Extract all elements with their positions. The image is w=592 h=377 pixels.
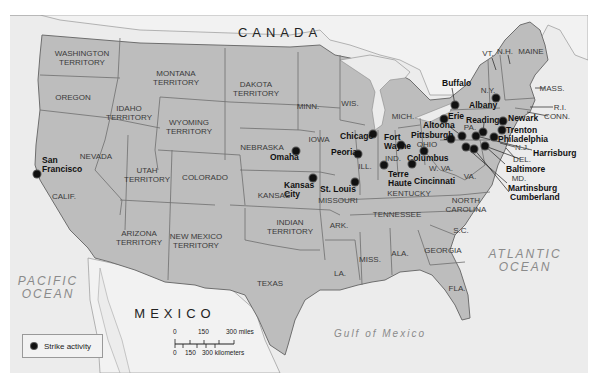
region-label: COLORADO — [182, 173, 228, 182]
strike-marker-icon — [34, 171, 41, 178]
region-label: WYOMINGTERRITORY — [166, 118, 212, 136]
region-label-line: VA. — [464, 172, 476, 181]
city-label-line: Reading — [466, 116, 500, 125]
region-label-line: N.Y. — [481, 86, 496, 95]
strike-marker-icon — [459, 133, 466, 140]
region-label-line: ALA. — [391, 249, 408, 258]
region-label-line: OHIO — [417, 140, 437, 149]
region-label: UTAHTERRITORY — [124, 166, 170, 184]
city-label: Albany — [469, 101, 497, 110]
city-label: Peoria — [331, 148, 357, 157]
region-label: VT. — [482, 49, 494, 58]
legend-label: Strike activity — [44, 342, 91, 351]
region-label-line: IND. — [385, 154, 401, 163]
ocean-line: OCEAN — [488, 261, 561, 274]
region-label: FLA. — [449, 284, 466, 293]
region-label-line: IOWA — [308, 135, 329, 144]
region-label: GEORGIA — [424, 246, 461, 255]
region-label-line: TENNESSEE — [373, 210, 421, 219]
region-label-line: TERRITORY — [116, 238, 162, 247]
region-label-line: UTAH — [124, 166, 170, 175]
city-label-line: Philadelphia — [498, 135, 548, 144]
city-label: Chicago — [340, 132, 374, 141]
region-label-line: S.C. — [453, 226, 469, 235]
city-label-line: Chicago — [340, 132, 374, 141]
ocean-label-gulf: Gulf of Mexico — [334, 327, 426, 340]
region-label: S.C. — [453, 226, 469, 235]
region-label: NEVADA — [80, 152, 112, 161]
strike-marker-icon — [471, 146, 478, 153]
region-label: IND. — [385, 154, 401, 163]
region-label: LA. — [334, 269, 346, 278]
region-label-line: TERRITORY — [233, 89, 279, 98]
region-label: NORTHCAROLINA — [446, 196, 487, 214]
region-label: MISS. — [359, 255, 381, 264]
region-label: W. VA. — [429, 164, 453, 173]
region-label: OHIO — [417, 140, 437, 149]
country-label-mexico: MEXICO — [134, 306, 215, 321]
city-label-line: Peoria — [331, 148, 357, 157]
region-label: DAKOTATERRITORY — [233, 80, 279, 98]
region-label: NEW MEXICOTERRITORY — [170, 232, 222, 250]
region-label-line: TERRITORY — [124, 175, 170, 184]
region-label: R.I. — [554, 103, 566, 112]
region-label-line: MINN. — [297, 102, 320, 111]
region-label: VA. — [464, 172, 476, 181]
strike-marker-icon — [473, 133, 480, 140]
ocean-line: OCEAN — [18, 288, 78, 301]
region-label: OREGON — [55, 93, 91, 102]
region-label: TEXAS — [257, 279, 283, 288]
city-label-line: Albany — [469, 101, 497, 110]
legend: Strike activity — [22, 334, 103, 358]
region-label-line: WASHINGTON — [55, 49, 110, 58]
city-label-line: Buffalo — [442, 79, 471, 88]
city-label: TerreHaute — [388, 170, 412, 188]
strike-marker-icon — [500, 118, 507, 125]
city-label-line: Newark — [508, 114, 538, 123]
region-label-line: ARIZONA — [116, 229, 162, 238]
country-label-canada: CANADA — [238, 25, 322, 40]
region-label: N.Y. — [481, 86, 496, 95]
region-label-line: MISSOURI — [318, 196, 358, 205]
region-label-line: MONTANA — [153, 69, 199, 78]
region-label-line: MAINE — [518, 47, 543, 56]
region-label-line: TERRITORY — [106, 113, 152, 122]
region-label-line: TERRITORY — [267, 227, 313, 236]
region-label: WIS. — [341, 99, 358, 108]
region-label: MONTANATERRITORY — [153, 69, 199, 87]
region-label-line: FLA. — [449, 284, 466, 293]
region-label-line: ILL. — [358, 162, 371, 171]
region-label: DEL. — [513, 155, 531, 164]
region-label: MINN. — [297, 102, 320, 111]
region-label-line: TERRITORY — [55, 58, 110, 67]
city-label-line: Harrisburg — [533, 149, 576, 158]
city-label: Newark — [508, 114, 538, 123]
region-label: MICH. — [392, 112, 415, 121]
region-label-line: W. VA. — [429, 164, 453, 173]
region-label: CONN. — [544, 112, 570, 121]
region-label-line: ARK. — [330, 221, 349, 230]
region-label-line: OREGON — [55, 93, 91, 102]
city-label: FortWayne — [384, 133, 411, 151]
region-label: MAINE — [518, 47, 543, 56]
region-label-line: NEW MEXICO — [170, 232, 222, 241]
region-label-line: VT. — [482, 49, 494, 58]
city-label-line: St. Louis — [320, 185, 356, 194]
region-label-line: WIS. — [341, 99, 358, 108]
region-label: ILL. — [358, 162, 371, 171]
region-label: N.H. — [497, 47, 513, 56]
region-label: MISSOURI — [318, 196, 358, 205]
city-label-line: Cumberland — [510, 193, 560, 202]
region-label: ALA. — [391, 249, 408, 258]
scale-km-300: 300 kilometers — [202, 349, 244, 356]
region-label-line: CONN. — [544, 112, 570, 121]
region-label-line: CAROLINA — [446, 205, 487, 214]
ocean-label-atlantic: ATLANTIC OCEAN — [488, 248, 561, 274]
map-frame: CANADA MEXICO PACIFIC OCEAN ATLANTIC OCE… — [10, 15, 588, 373]
city-label: Altoona — [423, 121, 455, 130]
strike-activity-icon — [31, 343, 37, 349]
region-label: MASS. — [540, 84, 565, 93]
city-label-line: Cincinnati — [414, 177, 455, 186]
strike-marker-icon — [499, 127, 506, 134]
region-label-line: IDAHO — [106, 104, 152, 113]
